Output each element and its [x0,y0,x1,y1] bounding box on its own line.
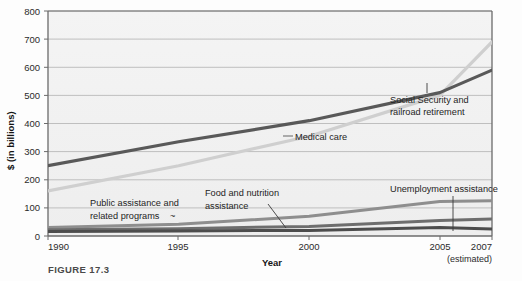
social-security-label-line2: railroad retirement [390,107,465,117]
food-nutrition-label-line2: assistance [205,201,248,211]
x-tick-1995: 1995 [167,241,188,252]
x-axis-title: Year [262,257,282,268]
x-tick-2005: 2005 [429,241,450,252]
medical-care-label: Medical care [295,132,347,142]
social-security-label-line1: Social Security and [390,95,469,105]
y-axis-tick-labels: 800 700 600 500 400 300 200 100 0 [24,6,40,242]
x-tick-1990: 1990 [48,241,69,252]
food-nutrition-label-line1: Food and nutrition [205,188,279,198]
figure-number: FIGURE 17.3 [48,264,109,275]
y-axis-title: $ (in billions) [5,111,16,170]
y-tick-400: 400 [24,118,40,129]
public-assistance-label-line2: related programs [90,211,160,221]
y-tick-600: 600 [24,62,40,73]
line-chart: 800 700 600 500 400 300 200 100 0 $ (in … [0,0,522,281]
y-tick-500: 500 [24,90,40,101]
y-tick-100: 100 [24,202,40,213]
y-tick-700: 700 [24,34,40,45]
y-tick-800: 800 [24,6,40,17]
public-assistance-label-line1: Public assistance and [90,198,179,208]
x-tick-2007-sublabel: (estimated) [447,254,492,264]
unemployment-label: Unemployment assistance [390,184,498,194]
y-tick-0: 0 [35,231,40,242]
y-tick-300: 300 [24,146,40,157]
x-tick-2007: 2007 [471,241,492,252]
x-tick-2000: 2000 [298,241,319,252]
figure-container: 800 700 600 500 400 300 200 100 0 $ (in … [0,0,522,281]
public-assistance-label-tail: ~ [170,211,175,221]
y-tick-200: 200 [24,174,40,185]
